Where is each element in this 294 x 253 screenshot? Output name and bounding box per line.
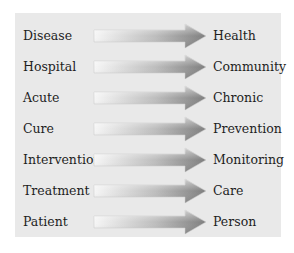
right-arrow-icon [93,147,207,173]
right-arrow-icon [93,178,207,204]
from-label: Disease [23,28,72,43]
to-label: Community [213,59,286,74]
right-arrow-icon [93,23,207,49]
to-label: Monitoring [213,152,284,167]
to-label: Prevention [213,121,282,136]
from-label: Treatment [23,183,90,198]
shift-row: Treatment Care [15,178,281,204]
to-label: Chronic [213,90,263,105]
to-label: Person [213,214,256,229]
diagram-panel: Disease Health Hospital Community Acute … [15,13,281,237]
shift-row: Hospital Community [15,54,281,80]
to-label: Care [213,183,243,198]
shift-row: Disease Health [15,23,281,49]
shift-row: Intervention Monitoring [15,147,281,173]
from-label: Intervention [23,152,102,167]
from-label: Patient [23,214,68,229]
from-label: Hospital [23,59,76,74]
shift-row: Acute Chronic [15,85,281,111]
from-label: Cure [23,121,54,136]
right-arrow-icon [93,85,207,111]
to-label: Health [213,28,256,43]
right-arrow-icon [93,209,207,235]
shift-row: Patient Person [15,209,281,235]
shift-row: Cure Prevention [15,116,281,142]
right-arrow-icon [93,116,207,142]
from-label: Acute [23,90,60,105]
right-arrow-icon [93,54,207,80]
